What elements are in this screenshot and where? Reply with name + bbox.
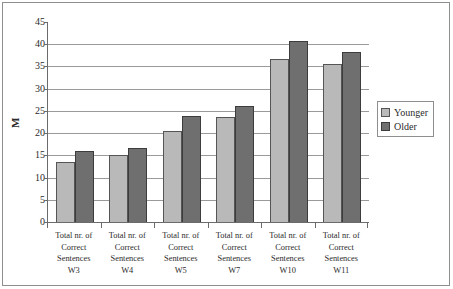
x-axis-category-label-line: Total nr. of <box>262 230 314 242</box>
x-axis-category-label-line: Total nr. of <box>209 230 261 242</box>
y-axis-tick-label: 25 <box>24 106 45 116</box>
bar-group <box>209 22 263 222</box>
bar-younger[interactable] <box>109 155 128 222</box>
y-axis-tick-label: 20 <box>24 128 45 138</box>
x-axis-tickmark <box>208 223 209 228</box>
y-axis-tick-label: 30 <box>24 84 45 94</box>
legend-item-label: Older <box>394 121 417 132</box>
y-axis-tick-label: 10 <box>24 173 45 183</box>
x-axis-category-label: Total nr. ofCorrectSentencesW11 <box>315 230 369 282</box>
x-axis-category-label-line: W10 <box>262 265 314 277</box>
y-axis-tick-labels: 454035302520151050 <box>24 14 45 230</box>
y-axis-tick-label: 0 <box>24 217 45 227</box>
x-axis-category-label-line: Correct <box>209 242 261 254</box>
y-axis-title: M <box>6 112 24 134</box>
bar-younger[interactable] <box>56 162 75 222</box>
x-axis-category-label-line: Correct <box>262 242 314 254</box>
x-axis-category-label-line: Total nr. of <box>48 230 100 242</box>
bar-chart: M 454035302520151050 Total nr. ofCorrect… <box>0 0 453 289</box>
x-axis-category-label: Total nr. ofCorrectSentencesW7 <box>208 230 262 282</box>
legend-swatch-icon <box>381 108 390 117</box>
x-axis-category-label-line: W7 <box>209 265 261 277</box>
y-axis-tick-label: 5 <box>24 195 45 205</box>
x-axis-category-label: Total nr. ofCorrectSentencesW10 <box>261 230 315 282</box>
x-axis-tickmark <box>315 223 316 228</box>
x-axis-category-label-line: Sentences <box>209 253 261 265</box>
plot-area <box>47 22 369 223</box>
bar-group <box>155 22 209 222</box>
legend-item[interactable]: Younger <box>381 105 428 119</box>
x-axis-category-label-line: Total nr. of <box>102 230 154 242</box>
bar-group <box>316 22 370 222</box>
bar-younger[interactable] <box>323 64 342 222</box>
x-axis-category-label-line: Sentences <box>102 253 154 265</box>
x-axis-tickmark <box>47 223 48 228</box>
bar-older[interactable] <box>182 116 201 222</box>
x-axis-category-label-line: Sentences <box>262 253 314 265</box>
x-axis-tickmark <box>154 223 155 228</box>
bar-older[interactable] <box>235 106 254 222</box>
x-axis-category-labels: Total nr. ofCorrectSentencesW3Total nr. … <box>47 230 368 282</box>
bar-older[interactable] <box>75 151 94 222</box>
x-axis-category-label-line: W3 <box>48 265 100 277</box>
bar-older[interactable] <box>128 148 147 222</box>
legend-swatch-icon <box>381 122 390 131</box>
bar-group <box>102 22 156 222</box>
legend-item-label: Younger <box>394 107 428 118</box>
x-axis-category-label-line: W11 <box>316 265 368 277</box>
bar-younger[interactable] <box>163 131 182 222</box>
x-axis-category-label-line: Total nr. of <box>316 230 368 242</box>
bar-younger[interactable] <box>216 117 235 222</box>
bar-older[interactable] <box>342 52 361 222</box>
legend-item[interactable]: Older <box>381 119 428 133</box>
x-axis-tickmarks <box>47 223 368 228</box>
y-axis-tick-label: 15 <box>24 150 45 160</box>
x-axis-tickmark <box>367 223 368 228</box>
x-axis-tickmark <box>101 223 102 228</box>
x-axis-category-label-line: Correct <box>48 242 100 254</box>
x-axis-category-label-line: Total nr. of <box>155 230 207 242</box>
x-axis-category-label-line: Sentences <box>48 253 100 265</box>
chart-legend: YoungerOlder <box>377 101 434 137</box>
bars-layer <box>48 22 369 222</box>
bar-older[interactable] <box>289 41 308 222</box>
bar-group <box>262 22 316 222</box>
y-axis-tick-label: 45 <box>24 17 45 27</box>
x-axis-category-label-line: Sentences <box>316 253 368 265</box>
x-axis-tickmark <box>261 223 262 228</box>
y-axis-tick-label: 40 <box>24 39 45 49</box>
x-axis-category-label-line: Correct <box>102 242 154 254</box>
bar-younger[interactable] <box>270 59 289 222</box>
x-axis-category-label: Total nr. ofCorrectSentencesW5 <box>154 230 208 282</box>
y-axis-tick-label: 35 <box>24 61 45 71</box>
x-axis-category-label: Total nr. ofCorrectSentencesW3 <box>47 230 101 282</box>
bar-group <box>48 22 102 222</box>
x-axis-category-label-line: Correct <box>155 242 207 254</box>
x-axis-category-label-line: W5 <box>155 265 207 277</box>
x-axis-category-label-line: Sentences <box>155 253 207 265</box>
x-axis-category-label: Total nr. ofCorrectSentencesW4 <box>101 230 155 282</box>
x-axis-category-label-line: W4 <box>102 265 154 277</box>
x-axis-category-label-line: Correct <box>316 242 368 254</box>
